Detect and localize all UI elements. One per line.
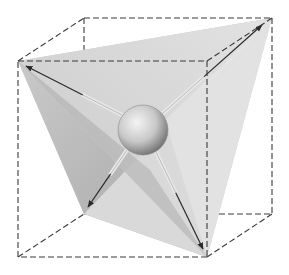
cube-edge-bottom-left-depth [18, 214, 84, 257]
diagram-canvas [0, 0, 289, 275]
tetrahedron-cube-diagram [0, 0, 289, 275]
central-sphere [118, 105, 168, 155]
